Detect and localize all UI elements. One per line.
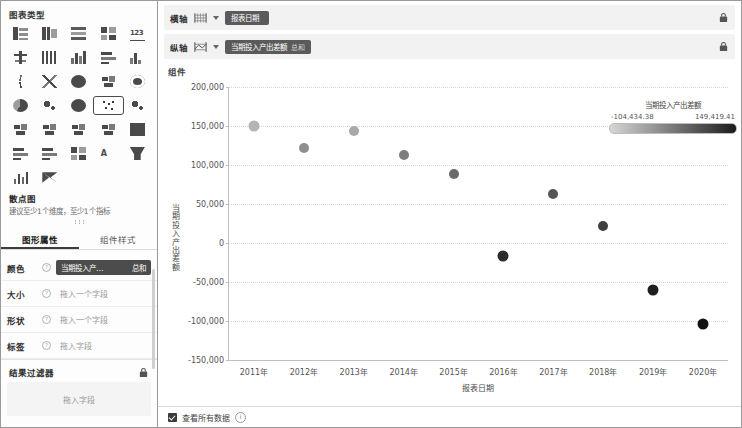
help-icon[interactable]: ?: [42, 341, 51, 350]
chart-type-description: 散点图 建议至少1个维度，至少1个指标: [1, 186, 157, 217]
size-field-dropzone[interactable]: 拖入一个字段: [56, 288, 151, 299]
lock-icon[interactable]: [718, 41, 729, 52]
gridline: [229, 204, 728, 205]
scatter-point[interactable]: [648, 284, 659, 295]
x-axis-tick-label: 2018年: [589, 366, 617, 377]
legend-max-label: 149,419.41: [695, 113, 735, 121]
scatter-point[interactable]: [248, 121, 259, 132]
timeline-chart-icon[interactable]: [35, 145, 64, 162]
sunburst-chart-icon[interactable]: [64, 97, 93, 114]
legend-min-label: -104,434.38: [611, 113, 654, 121]
vertical-axis-icon: [194, 40, 207, 54]
y-axis-tick-label: 50,000: [196, 200, 224, 209]
pie-chart-icon[interactable]: [6, 97, 35, 114]
bar-chart-icon[interactable]: [64, 49, 93, 66]
donut-chart-icon-glyph: [42, 99, 57, 112]
property-tabs[interactable]: 图形属性 组件样式: [1, 228, 157, 250]
shape-field-dropzone[interactable]: 拖入一个字段: [56, 314, 151, 325]
column-chart-icon-glyph: [13, 51, 28, 64]
lock-icon[interactable]: [718, 12, 729, 23]
horizontal-bar-icon[interactable]: [94, 49, 123, 66]
x-axis-tick-label: 2014年: [389, 366, 417, 377]
scatter-point[interactable]: [598, 221, 608, 231]
matrix-chart-icon-glyph: [71, 147, 86, 160]
funnel-chart-icon[interactable]: [123, 145, 152, 162]
left-config-panel: 图表类型 123A 散点图 建议至少1个维度，至少1个指标 图形属性 组件样式 …: [0, 0, 158, 428]
label-field-dropzone[interactable]: 拖入字段: [56, 340, 151, 351]
polar-chart-icon[interactable]: [64, 73, 93, 90]
cross-table-icon[interactable]: [35, 25, 64, 42]
help-icon[interactable]: ?: [42, 315, 51, 324]
radar-chart-icon[interactable]: [35, 73, 64, 90]
map-chart-icon[interactable]: [94, 73, 123, 90]
vertical-axis-label: 纵轴: [170, 41, 188, 53]
table-icon[interactable]: [6, 25, 35, 42]
help-icon[interactable]: ?: [42, 263, 51, 272]
funnel-map-icon[interactable]: [35, 121, 64, 138]
scatter-point[interactable]: [498, 251, 509, 262]
histogram-icon[interactable]: [123, 49, 152, 66]
property-label-label: 标签: [7, 340, 37, 352]
map-chart-icon-glyph: [101, 75, 116, 88]
left-panel-scrollbar[interactable]: [152, 269, 155, 369]
scatter-point[interactable]: [449, 169, 459, 179]
horizontal-axis-dropdown-caret[interactable]: [213, 16, 219, 20]
heatmap-icon[interactable]: [123, 121, 152, 138]
legend-title: 当期投入产出差额: [609, 99, 737, 110]
area-chart-icon[interactable]: [6, 73, 35, 90]
gauge-chart-icon[interactable]: [123, 73, 152, 90]
scatter-point[interactable]: [698, 319, 709, 330]
scatter-point[interactable]: [299, 143, 309, 153]
relation-chart-icon[interactable]: [64, 121, 93, 138]
tab-graphic-properties[interactable]: 图形属性: [1, 228, 79, 249]
x-axis-tick-label: 2012年: [290, 366, 318, 377]
bubble-chart-icon[interactable]: [123, 97, 152, 114]
column-chart-icon[interactable]: [6, 49, 35, 66]
butterfly-chart-icon-glyph: [42, 171, 57, 184]
tree-map-icon-glyph: [13, 123, 28, 136]
cross-table-icon-glyph: [42, 27, 57, 40]
result-filter-dropzone[interactable]: 拖入字段: [7, 382, 151, 416]
gridline: [229, 321, 728, 322]
histogram-icon-glyph: [130, 51, 145, 64]
pie-chart-icon-glyph: [13, 99, 28, 112]
property-row-size: 大小 ? 拖入一个字段: [1, 281, 157, 307]
donut-chart-icon[interactable]: [35, 97, 64, 114]
y-tick-mark: [226, 282, 229, 283]
chart-type-grid[interactable]: 123A: [1, 25, 157, 186]
detail-table-icon[interactable]: [64, 25, 93, 42]
horizontal-bar-icon-glyph: [101, 51, 116, 64]
matrix-chart-icon[interactable]: [64, 145, 93, 162]
horizontal-axis-field-pill[interactable]: 报表日期: [225, 11, 269, 25]
scatter-point[interactable]: [548, 189, 558, 199]
vertical-axis-dropdown-caret[interactable]: [213, 45, 219, 49]
legend-gradient-bar[interactable]: [609, 123, 737, 134]
gridline: [229, 87, 728, 88]
y-axis-tick-label: -100,000: [188, 317, 224, 326]
legend-range: -104,434.38 149,419.41: [609, 113, 737, 121]
info-icon[interactable]: i: [235, 412, 246, 423]
vertical-axis-field-pill[interactable]: 当期投入产出差额 总和: [225, 40, 311, 54]
sankey-chart-icon[interactable]: [94, 121, 123, 138]
color-field-pill[interactable]: 当期投入产… 总和: [56, 260, 151, 275]
gantt-chart-icon[interactable]: [6, 145, 35, 162]
vertical-axis-field-agg: 总和: [291, 42, 305, 52]
scatter-point[interactable]: [399, 150, 409, 160]
tab-component-style[interactable]: 组件样式: [79, 228, 157, 249]
word-cloud-icon-glyph: A: [101, 147, 116, 160]
summary-table-icon[interactable]: [94, 25, 123, 42]
scatter-chart-icon[interactable]: [94, 97, 123, 114]
stacked-column-icon[interactable]: [35, 49, 64, 66]
view-all-data-checkbox[interactable]: [168, 413, 177, 422]
panel-resize-handle[interactable]: [1, 219, 157, 225]
tree-map-icon[interactable]: [6, 121, 35, 138]
word-cloud-icon[interactable]: A: [94, 145, 123, 162]
lock-icon[interactable]: [138, 367, 149, 378]
help-icon[interactable]: ?: [42, 289, 51, 298]
butterfly-chart-icon[interactable]: [35, 169, 64, 186]
waterfall-chart-icon[interactable]: [6, 169, 35, 186]
property-label-size: 大小: [7, 288, 37, 300]
gridline: [229, 282, 728, 283]
kpi-number-icon[interactable]: 123: [123, 25, 152, 42]
scatter-point[interactable]: [349, 126, 359, 136]
